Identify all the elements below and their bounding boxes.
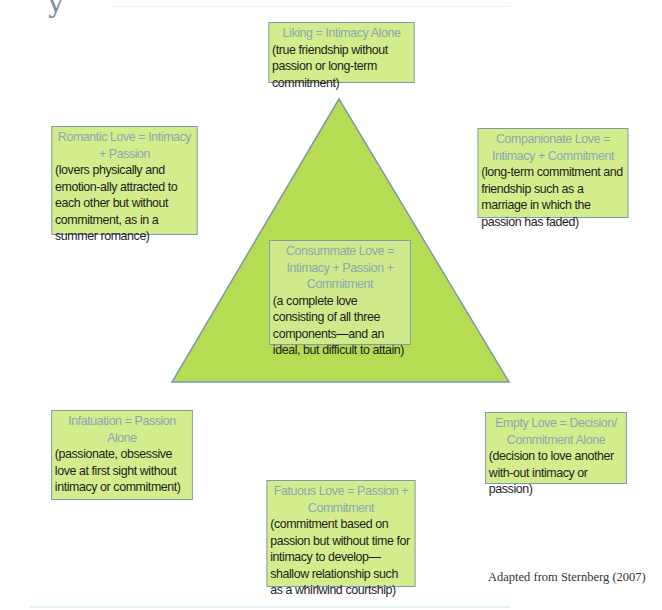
companionate-desc: (long-term commitment and friendship suc…	[481, 164, 625, 230]
fatuous-title: Fatuous Love = Passion + Commitment	[270, 483, 412, 516]
companionate-title: Companionate Love = Intimacy + Commitmen…	[481, 131, 625, 164]
box-companionate: Companionate Love = Intimacy + Commitmen…	[478, 128, 629, 218]
box-infatuation: Infatuation = Passion Alone (passionate,…	[51, 410, 193, 500]
fatuous-desc: (commitment based on passion but without…	[270, 516, 412, 599]
infatuation-title: Infatuation = Passion Alone	[55, 413, 189, 446]
bottom-rule	[30, 606, 510, 608]
infatuation-desc: (passionate, obsessive love at first sig…	[55, 446, 189, 496]
box-consummate: Consummate Love = Intimacy + Passion + C…	[269, 240, 411, 345]
consummate-desc: (a complete love consisting of all three…	[273, 293, 407, 359]
source-caption: Adapted from Sternberg (2007)	[488, 570, 646, 585]
box-empty: Empty Love = Decision/ Commitment Alone …	[485, 412, 627, 484]
box-liking: Liking = Intimacy Alone (true friendship…	[268, 22, 414, 83]
liking-desc: (true friendship without passion or long…	[272, 42, 411, 92]
empty-desc: (decision to love another with-out intim…	[489, 448, 623, 498]
box-romantic: Romantic Love = Intimacy + Passion (love…	[51, 126, 197, 235]
liking-title: Liking = Intimacy Alone	[272, 25, 411, 42]
romantic-title: Romantic Love = Intimacy + Passion	[55, 129, 194, 162]
consummate-title: Consummate Love = Intimacy + Passion + C…	[273, 243, 407, 293]
empty-title: Empty Love = Decision/ Commitment Alone	[489, 415, 623, 448]
romantic-desc: (lovers physically and emotion-ally attr…	[55, 162, 194, 245]
box-fatuous: Fatuous Love = Passion + Commitment (com…	[266, 480, 415, 587]
